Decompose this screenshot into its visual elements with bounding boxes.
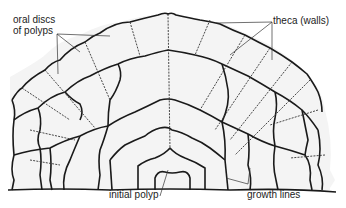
label-growth-lines: growth lines: [247, 189, 300, 200]
label-oral-discs-line2: of polyps: [13, 25, 53, 36]
label-oral-discs-line1: oral discs: [13, 14, 55, 25]
colony-body: [10, 13, 335, 190]
label-initial-polyp: initial polyp: [109, 189, 158, 200]
label-theca: theca (walls): [273, 15, 329, 26]
